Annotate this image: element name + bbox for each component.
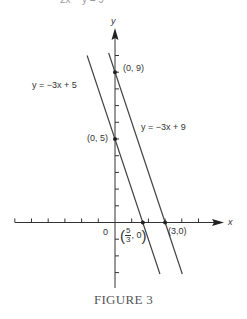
point-label-5-3-0: (53, 0) (120, 227, 146, 244)
figure-caption: FIGURE 3 (0, 292, 247, 308)
line-label-y-3x-5: y = −3x + 5 (32, 81, 77, 90)
point-marker (113, 137, 117, 141)
point-label-0-5: (0, 5) (87, 134, 108, 143)
line-label-y-3x-9: y = −3x + 9 (141, 123, 186, 132)
point-marker (141, 221, 145, 225)
point-marker (163, 221, 167, 225)
graph-plot (0, 0, 247, 290)
y-axis-label: y (111, 17, 116, 26)
point-marker (113, 70, 117, 74)
x-axis-label: x (228, 218, 233, 227)
point-label-3-0: (3,0) (168, 227, 187, 236)
point-label-0-9: (0, 9) (123, 64, 144, 73)
origin-label: 0 (103, 228, 108, 237)
x-axis (15, 219, 218, 223)
